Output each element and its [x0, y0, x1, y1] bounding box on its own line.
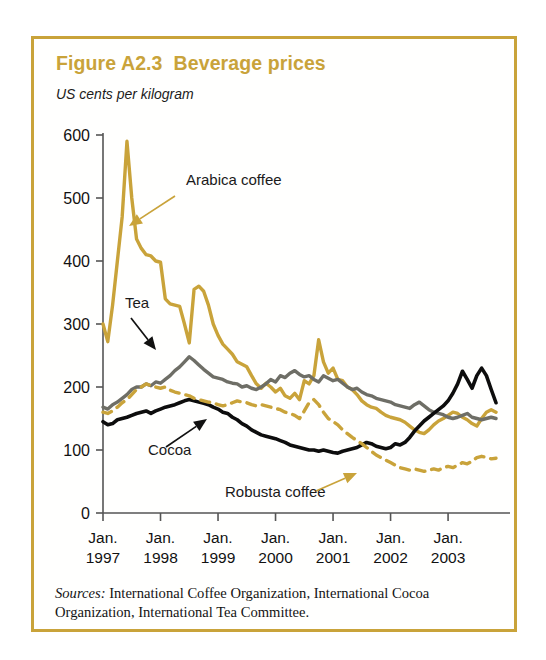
source-text: International Coffee Organization, Inter… [55, 585, 429, 620]
figure-frame [31, 36, 517, 632]
figure-title: Figure A2.3 Beverage prices [56, 52, 326, 75]
source-note: Sources: International Coffee Organizati… [55, 584, 495, 622]
figure-subtitle: US cents per kilogram [56, 86, 194, 102]
source-lead: Sources: [55, 585, 106, 601]
